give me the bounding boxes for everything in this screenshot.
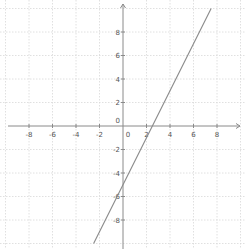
y-tick-label: 0 (116, 117, 120, 125)
y-tick-label: -2 (113, 146, 120, 154)
x-tick-label: 8 (215, 131, 219, 139)
x-tick-label: 4 (168, 131, 173, 139)
coordinate-plane: -8-6-4-202468-8-6-4-202468 (0, 0, 245, 249)
x-tick-label: 0 (126, 131, 130, 139)
y-tick-label: -4 (113, 170, 121, 178)
x-tick-label: -6 (49, 131, 57, 139)
axes (8, 4, 240, 249)
y-tick-label: 6 (116, 52, 121, 60)
x-tick-label: -4 (73, 131, 81, 139)
y-tick-label: -8 (113, 217, 120, 225)
x-tick-label: 6 (191, 131, 196, 139)
y-tick-label: 4 (116, 76, 121, 84)
y-tick-label: 8 (116, 29, 120, 37)
y-tick-label: 2 (116, 99, 120, 107)
x-tick-label: -8 (26, 131, 33, 139)
x-tick-label: -2 (96, 131, 103, 139)
